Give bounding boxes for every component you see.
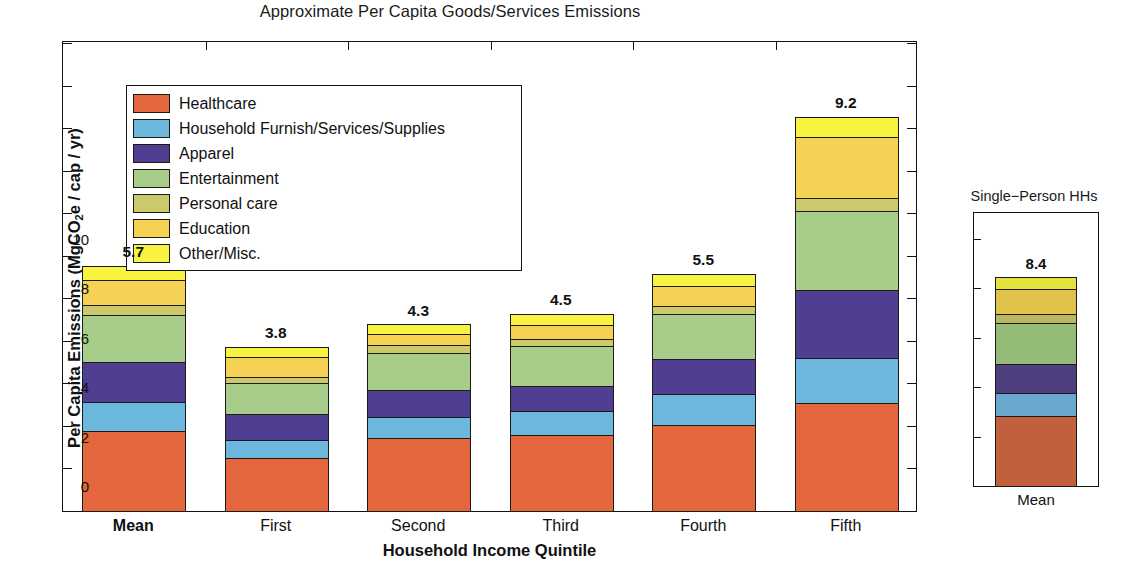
y-axis-tick-mark (907, 298, 916, 299)
bar-segment[interactable] (225, 414, 329, 441)
y-axis-tick-mark (63, 511, 72, 512)
bar-segment[interactable] (652, 394, 756, 426)
y-axis-tick-mark (63, 43, 72, 44)
bar-segment[interactable] (510, 324, 614, 340)
legend-item-2[interactable]: Apparel (133, 141, 521, 166)
legend-item-1[interactable]: Household Furnish/Services/Supplies (133, 116, 521, 141)
inset-y-axis-tick-mark (974, 338, 981, 339)
bar-segment[interactable] (510, 345, 614, 386)
bar-segment[interactable] (225, 439, 329, 459)
inset-y-axis-tick-label: 10 (49, 230, 89, 247)
bar-segment[interactable] (225, 383, 329, 415)
bar-segment[interactable] (795, 136, 899, 199)
bar-segment[interactable] (652, 305, 756, 315)
bar-segment[interactable] (510, 385, 614, 412)
legend-label: Apparel (179, 145, 234, 163)
bar-total-label: 3.8 (196, 324, 356, 342)
bar-segment[interactable] (510, 411, 614, 437)
inset-bar-segment[interactable] (995, 289, 1077, 315)
x-axis-tick-mark (348, 42, 349, 50)
inset-bar-segment[interactable] (995, 364, 1077, 394)
bar-total-label: 4.3 (338, 302, 498, 320)
x-axis-label: Household Income Quintile (62, 541, 917, 560)
legend-label: Household Furnish/Services/Supplies (179, 120, 445, 138)
bar-segment[interactable] (225, 347, 329, 358)
legend-item-5[interactable]: Education (133, 216, 521, 241)
inset-bar-mean[interactable] (995, 276, 1077, 487)
legend-item-4[interactable]: Personal care (133, 191, 521, 216)
bar-segment[interactable] (367, 334, 471, 346)
legend-swatch (133, 169, 170, 188)
bar-segment[interactable] (652, 274, 756, 288)
bar-segment[interactable] (795, 198, 899, 212)
bar-segment[interactable] (225, 457, 329, 512)
bar-segment[interactable] (367, 417, 471, 439)
bar-segment[interactable] (652, 424, 756, 512)
bar-segment[interactable] (795, 117, 899, 138)
bar-segment[interactable] (652, 314, 756, 360)
legend-swatch (133, 119, 170, 138)
bar-segment[interactable] (652, 286, 756, 307)
bar-segment[interactable] (795, 357, 899, 403)
inset-y-axis-tick-label: 6 (49, 329, 89, 346)
inset-bar-segment[interactable] (995, 415, 1077, 487)
bar-segment[interactable] (510, 435, 614, 512)
y-axis-tick-mark (907, 468, 916, 469)
inset-y-axis-tick-label: 4 (49, 379, 89, 396)
bar-segment[interactable] (82, 431, 186, 512)
bar-mean[interactable] (82, 265, 186, 512)
inset-y-axis-tick-mark (974, 239, 981, 240)
inset-bar-segment[interactable] (995, 314, 1077, 324)
main-chart-panel: Approximate Per Capita Goods/Services Em… (0, 0, 920, 574)
bar-segment[interactable] (225, 357, 329, 378)
bar-segment[interactable] (367, 437, 471, 512)
bar-segment[interactable] (795, 211, 899, 291)
x-axis-tick-mark (491, 42, 492, 50)
bar-second[interactable] (367, 324, 471, 512)
y-axis-tick-mark (63, 86, 72, 87)
inset-y-axis-tick-label: 0 (49, 478, 89, 495)
inset-bar-segment[interactable] (995, 392, 1077, 416)
bar-segment[interactable] (82, 362, 186, 403)
x-axis-tick-mark (776, 42, 777, 50)
inset-bar-segment[interactable] (995, 277, 1077, 291)
bar-segment[interactable] (82, 401, 186, 432)
y-axis-tick-mark (63, 171, 72, 172)
inset-bar-segment[interactable] (995, 322, 1077, 365)
y-axis-label-subscript: 2 (73, 214, 85, 220)
bar-segment[interactable] (795, 289, 899, 359)
y-axis-tick-mark (63, 128, 72, 129)
y-axis-tick-mark (907, 256, 916, 257)
bar-fourth[interactable] (652, 273, 756, 512)
inset-bar-total-label: 8.4 (973, 255, 1099, 272)
bar-total-label: 5.5 (623, 251, 783, 269)
legend-item-3[interactable]: Entertainment (133, 166, 521, 191)
x-axis-tick-mark (206, 42, 207, 50)
page-title: Approximate Per Capita Goods/Services Em… (0, 2, 900, 21)
bar-segment[interactable] (82, 280, 186, 306)
bar-segment[interactable] (82, 304, 186, 316)
bar-segment[interactable] (367, 389, 471, 418)
bar-fifth[interactable] (795, 116, 899, 512)
legend-swatch (133, 219, 170, 238)
bar-segment[interactable] (510, 314, 614, 326)
bar-total-label: 9.2 (766, 94, 926, 112)
y-axis-tick-mark (907, 86, 916, 87)
x-axis-tick-mark (633, 42, 634, 50)
legend-item-0[interactable]: Healthcare (133, 91, 521, 116)
inset-title: Single−Person HHs (926, 188, 1142, 204)
bar-first[interactable] (225, 346, 329, 512)
bar-segment[interactable] (82, 315, 186, 363)
y-axis-tick-mark (907, 43, 916, 44)
inset-y-axis-tick-mark (974, 486, 981, 487)
bar-segment[interactable] (652, 359, 756, 395)
inset-y-axis-tick-label: 8 (49, 280, 89, 297)
inset-y-axis-tick-mark (974, 437, 981, 438)
y-axis-tick-mark (63, 213, 72, 214)
bar-segment[interactable] (367, 352, 471, 391)
bar-segment[interactable] (795, 402, 899, 512)
bar-third[interactable] (510, 313, 614, 512)
inset-y-axis-tick-mark (974, 387, 981, 388)
inset-y-axis-tick-mark (974, 288, 981, 289)
bar-segment[interactable] (367, 324, 471, 335)
